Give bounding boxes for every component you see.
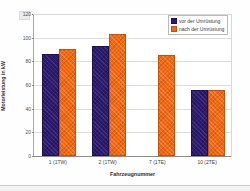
y-axis-tick-label: 40 [25,106,31,111]
legend-label-vor: vor der Umrüstung [179,19,220,24]
y-axis-tick-label: 20 [25,130,31,135]
bar-nach [208,90,225,156]
y-axis-tick-label: 80 [25,59,31,64]
legend-label-nach: nach der Umrüstung [179,27,224,32]
x-axis-tick-label: 2 (1TW) [99,160,117,165]
x-axis-tick-label: 10 (2TE) [197,160,216,165]
bar-vor [191,90,208,156]
bar-group [84,14,134,156]
chart-legend: vor der Umrüstung nach der Umrüstung [168,15,228,35]
y-axis-tick-mark [32,156,34,157]
legend-item-vor: vor der Umrüstung [171,18,224,24]
bar-chart-figure: Motorleistung in kW 020406080100120 1 (1… [0,0,250,191]
bar-vor [42,54,59,156]
y-axis-tick-label: 100 [23,35,31,40]
x-axis-tick-label: 1 (1TW) [49,160,67,165]
bar-nach [158,55,175,156]
legend-swatch-icon-vor [171,18,177,24]
bar-vor [92,46,109,156]
bar-nach [59,49,76,156]
page-edge [0,185,250,191]
y-axis-title: Motorleistung in kW [1,61,6,111]
bar-groups [34,14,232,156]
bar-group [134,14,184,156]
legend-item-nach: nach der Umrüstung [171,26,224,32]
bar-group [183,14,233,156]
x-axis-tick-label: 7 (1TE) [149,160,166,165]
plot-area: 020406080100120 [33,14,232,157]
bar-nach [109,34,126,156]
bar-group [34,14,84,156]
y-axis-tick-label: 120 [23,12,31,17]
y-axis-tick-label: 0 [28,154,31,159]
legend-swatch-icon-nach [171,26,177,32]
y-axis-tick-label: 60 [25,83,31,88]
x-axis-title: Fahrzeugnummer [33,172,232,177]
